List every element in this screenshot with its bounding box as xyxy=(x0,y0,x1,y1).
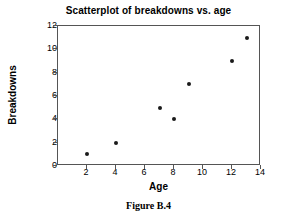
y-axis-tick-mark xyxy=(53,142,57,143)
y-axis-tick-mark xyxy=(53,95,57,96)
y-axis-tick-mark xyxy=(53,48,57,49)
x-axis-tick-mark xyxy=(144,165,145,169)
y-axis-tick-mark xyxy=(53,72,57,73)
x-axis-tick-mark xyxy=(115,165,116,169)
x-axis-tick-label: 6 xyxy=(141,168,146,177)
x-axis-tick-mark xyxy=(202,165,203,169)
x-axis-label: Age xyxy=(57,181,260,192)
y-axis-label: Breakdowns xyxy=(7,65,18,124)
figure-container: Scatterplot of breakdowns vs. age 024681… xyxy=(0,0,297,219)
x-axis-tick-label: 4 xyxy=(112,168,117,177)
data-point xyxy=(230,59,234,63)
scatter-points-layer xyxy=(58,26,259,164)
x-axis-tick-mark xyxy=(173,165,174,169)
data-point xyxy=(85,152,89,156)
x-axis-tick-label: 10 xyxy=(197,168,207,177)
x-axis-tick-mark xyxy=(231,165,232,169)
data-point xyxy=(158,106,162,110)
x-axis-tick-label: 8 xyxy=(170,168,175,177)
data-point xyxy=(187,82,191,86)
data-point xyxy=(114,141,118,145)
chart-title: Scatterplot of breakdowns vs. age xyxy=(0,5,297,17)
data-point xyxy=(245,36,249,40)
figure-caption: Figure B.4 xyxy=(0,200,297,211)
x-axis-tick-mark xyxy=(86,165,87,169)
x-axis-tick-label: 2 xyxy=(83,168,88,177)
x-axis-tick-label: 14 xyxy=(255,168,265,177)
x-axis-tick-mark xyxy=(260,165,261,169)
y-axis-tick-mark xyxy=(53,25,57,26)
x-axis-tick-label: 12 xyxy=(226,168,236,177)
plot-area xyxy=(57,25,260,165)
y-axis-tick-mark xyxy=(53,118,57,119)
y-axis-tick-mark xyxy=(53,165,57,166)
data-point xyxy=(172,117,176,121)
